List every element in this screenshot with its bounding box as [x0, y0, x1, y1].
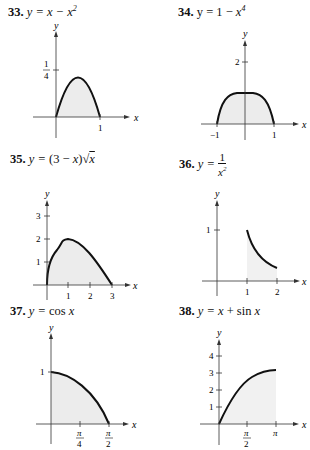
svg-text:y: y	[216, 327, 222, 338]
svg-text:π: π	[244, 428, 249, 438]
svg-text:1: 1	[209, 402, 214, 412]
svg-text:π: π	[273, 428, 278, 438]
svg-text:2: 2	[244, 439, 249, 449]
graph-38: x y 1 2 3 4 π 2 π	[0, 0, 310, 450]
svg-text:x: x	[301, 419, 307, 430]
svg-text:3: 3	[209, 368, 214, 378]
svg-text:4: 4	[209, 351, 214, 361]
svg-text:2: 2	[209, 385, 214, 395]
